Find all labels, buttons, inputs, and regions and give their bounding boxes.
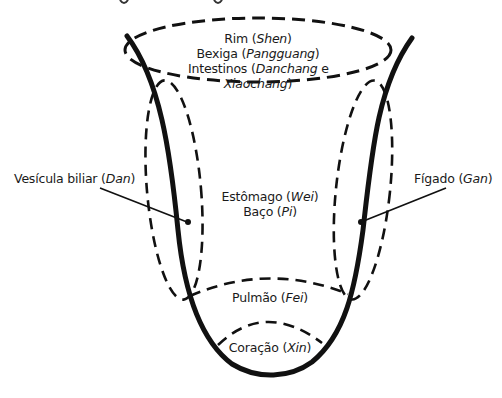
label-bexiga: Bexiga (Pangguang) (188, 46, 328, 61)
label-rim: Rim (Shen) (188, 31, 328, 46)
bottom-region-label: Coração (Xin) (220, 340, 320, 355)
left-region-label: Vesícula biliar (Dan) (14, 171, 135, 186)
top-region-label: Rim (Shen) Bexiga (Pangguang) Intestinos… (188, 31, 328, 91)
label-xiaochang: Xiaochang) (188, 76, 328, 91)
right-region-label: Fígado (Gan) (414, 171, 492, 186)
right-leader-line (361, 188, 446, 222)
label-intestinos: Intestinos (Danchang e (188, 61, 328, 76)
cropped-heading-fragment (120, 0, 222, 3)
right-region-ellipse (325, 78, 402, 302)
label-baco: Baço (Pi) (220, 204, 320, 219)
lower-region-label: Pulmão (Fei) (220, 290, 320, 305)
left-leader-dot (185, 219, 191, 225)
center-region-label: Estômago (Wei) Baço (Pi) (220, 189, 320, 219)
label-estomago: Estômago (Wei) (220, 189, 320, 204)
right-leader-dot (358, 219, 364, 225)
